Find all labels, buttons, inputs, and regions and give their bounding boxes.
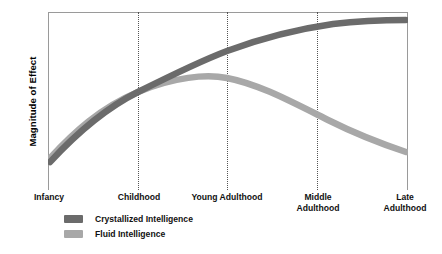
legend-item-crystallized: Crystallized Intelligence	[64, 212, 193, 225]
legend-item-fluid: Fluid Intelligence	[64, 227, 193, 240]
chart-legend: Crystallized Intelligence Fluid Intellig…	[64, 212, 193, 240]
legend-swatch-crystallized	[64, 215, 83, 223]
xtick-childhood: Childhood	[106, 192, 172, 203]
y-axis-label: Magnitude of Effect	[27, 22, 38, 182]
plot-area	[48, 12, 408, 190]
crystallized-intelligence-curve	[50, 20, 406, 162]
legend-label-fluid: Fluid Intelligence	[95, 229, 165, 239]
legend-swatch-fluid	[64, 230, 83, 238]
xtick-young-adulthood: Young Adulthood	[177, 192, 277, 203]
xtick-late-adulthood: Late Adulthood	[368, 192, 442, 213]
xtick-middle-adulthood: Middle Adulthood	[278, 192, 358, 213]
curve-group	[48, 12, 408, 190]
legend-label-crystallized: Crystallized Intelligence	[95, 214, 193, 224]
intelligence-development-chart: Magnitude of Effect Infancy Childhood Yo…	[0, 0, 442, 254]
xtick-infancy: Infancy	[18, 192, 80, 203]
